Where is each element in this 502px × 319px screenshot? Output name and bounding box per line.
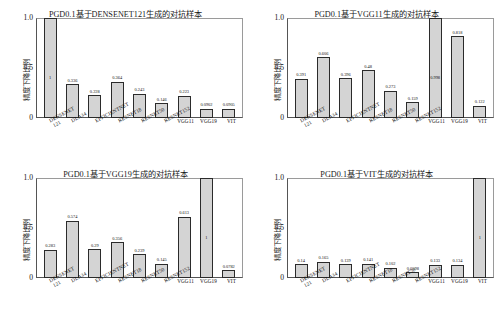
- x-tick-label: VGG19: [451, 278, 468, 284]
- x-tick-label: VIT: [478, 278, 487, 284]
- chart-panel-3: PGD0.1基于VGG19生成的对抗样本精度下降比例1.00.500.2830.…: [0, 160, 251, 319]
- bar[interactable]: 0.396: [339, 78, 352, 118]
- plot-area: 1.00.500.140.1650.1390.1410.1020.05980.1…: [287, 178, 494, 278]
- x-axis-ticks: DENSENET121DLA34EFFICIENTNETRESNET18RESN…: [36, 118, 243, 158]
- bar-value-label: 0.0902: [200, 102, 212, 107]
- bar[interactable]: 1: [473, 178, 486, 278]
- bar-value-label: 0.818: [453, 30, 463, 35]
- bar[interactable]: 0.391: [295, 79, 308, 118]
- bar[interactable]: 1: [44, 18, 57, 118]
- y-tick-label: 1.0: [24, 173, 34, 182]
- bar-series: 10.3360.2280.3640.2430.1460.2230.09020.0…: [36, 18, 243, 118]
- y-tick-label: 0.5: [275, 223, 285, 232]
- bar-slot: 1: [39, 18, 61, 118]
- bar-value-label: 0.139: [341, 258, 351, 263]
- bar-value-label: 0.228: [90, 89, 100, 94]
- bar-value-label: 1: [49, 75, 51, 80]
- y-tick-label: 1.0: [275, 173, 285, 182]
- bar-slot: 0.223: [173, 18, 195, 118]
- x-axis-ticks: DENSENET121DLA34EFFICIENTNETRESNET18RESN…: [36, 278, 243, 318]
- bar-series: 0.3910.6060.3960.480.2730.1590.9980.8180…: [287, 18, 494, 118]
- bar-value-label: 0.122: [475, 99, 485, 104]
- bar[interactable]: 0.0782: [222, 270, 235, 278]
- x-tick-label: VIT: [227, 118, 236, 124]
- bar[interactable]: 0.818: [451, 36, 464, 118]
- bar-slot: 0.134: [446, 178, 468, 278]
- bar-value-label: 0.48: [364, 64, 372, 69]
- bar-slot: 0.0598: [402, 178, 424, 278]
- x-tick-label-line1: VGG11: [428, 118, 445, 124]
- x-axis-ticks: DENSENET121DLA34EFFICIENTNETRESNET18RESN…: [287, 118, 494, 158]
- bar-value-label: 0.239: [135, 248, 145, 253]
- bar[interactable]: 1: [200, 178, 213, 278]
- x-tick-label-line1: VIT: [478, 278, 487, 284]
- y-tick-label: 1.0: [24, 13, 34, 22]
- x-tick-label-line1: VGG11: [428, 278, 445, 284]
- bar-slot: 0.145: [151, 178, 173, 278]
- bar-slot: 0.139: [335, 178, 357, 278]
- bar-slot: 0.133: [424, 178, 446, 278]
- bar-value-label: 0.613: [179, 210, 189, 215]
- y-tick-label: 0.5: [275, 63, 285, 72]
- plot-area: 1.00.500.3910.6060.3960.480.2730.1590.99…: [287, 18, 494, 118]
- x-tick-label-line1: VGG11: [177, 278, 194, 284]
- bar-value-label: 0.998: [430, 75, 440, 80]
- bar-series: 0.2830.5740.290.3560.2390.1450.61310.078…: [36, 178, 243, 278]
- bar-value-label: 0.364: [112, 75, 122, 80]
- x-tick-label: VIT: [227, 278, 236, 284]
- chart-panel-1: PGD0.1基于DENSENET121生成的对抗样本精度下降比例1.00.501…: [0, 0, 251, 160]
- bar-slot: 0.159: [402, 18, 424, 118]
- bar-slot: 0.336: [61, 18, 83, 118]
- x-tick-label: VGG11: [428, 278, 445, 284]
- x-tick-label: VGG11: [428, 118, 445, 124]
- bar-value-label: 0.145: [157, 257, 167, 262]
- bar-slot: 0.243: [128, 18, 150, 118]
- bar-value-label: 0.574: [68, 214, 78, 219]
- bar-value-label: 0.606: [319, 51, 329, 56]
- x-tick-label: VGG11: [177, 118, 194, 124]
- bar-slot: 0.146: [151, 18, 173, 118]
- x-axis-ticks: DENSENET121DLA34EFFICIENTNETRESNET18RESN…: [287, 278, 494, 318]
- bar-slot: 0.14: [290, 178, 312, 278]
- x-tick-label-line1: VIT: [227, 278, 236, 284]
- bar-slot: 0.391: [290, 18, 312, 118]
- bar-value-label: 0.391: [296, 72, 306, 77]
- plot-area: 1.00.500.2830.5740.290.3560.2390.1450.61…: [36, 178, 243, 278]
- bar-value-label: 0.223: [179, 89, 189, 94]
- bar[interactable]: 0.0902: [200, 109, 213, 118]
- y-tick-label: 1.0: [275, 13, 285, 22]
- bar-slot: 0.818: [446, 18, 468, 118]
- y-tick-label: 0: [29, 273, 33, 282]
- x-tick-label-line1: VGG19: [200, 118, 217, 124]
- bar-value-label: 0.273: [386, 84, 396, 89]
- bar-slot: 0.283: [39, 178, 61, 278]
- x-tick-label-line1: VIT: [227, 118, 236, 124]
- x-tick-label: VGG11: [177, 278, 194, 284]
- bar-slot: 0.0782: [218, 178, 240, 278]
- x-tick-label-line1: VGG19: [451, 118, 468, 124]
- bar[interactable]: 0.134: [451, 265, 464, 278]
- bar[interactable]: 0.122: [473, 106, 486, 118]
- bar-slot: 0.228: [84, 18, 106, 118]
- x-tick-label-line1: VGG11: [177, 118, 194, 124]
- x-tick-label: VGG19: [451, 118, 468, 124]
- plot-area: 1.00.5010.3360.2280.3640.2430.1460.2230.…: [36, 18, 243, 118]
- bar-slot: 0.29: [84, 178, 106, 278]
- bar-value-label: 0.134: [453, 258, 463, 263]
- bar-slot: 0.122: [469, 18, 491, 118]
- bar-slot: 0.165: [312, 178, 334, 278]
- bar-slot: 0.0905: [218, 18, 240, 118]
- bar-value-label: 0.356: [112, 236, 122, 241]
- chart-panel-4: PGD0.1基于VIT生成的对抗样本精度下降比例1.00.500.140.165…: [251, 160, 502, 319]
- bar[interactable]: 0.0905: [222, 109, 235, 118]
- figure-grid: PGD0.1基于DENSENET121生成的对抗样本精度下降比例1.00.501…: [0, 0, 502, 319]
- bar-slot: 1: [469, 178, 491, 278]
- bar[interactable]: 0.998: [429, 18, 442, 118]
- bar-value-label: 0.159: [408, 96, 418, 101]
- bar-value-label: 0.133: [430, 258, 440, 263]
- chart-panel-2: PGD0.1基于VGG11生成的对抗样本精度下降比例1.00.500.3910.…: [251, 0, 502, 160]
- bar-slot: 0.998: [424, 18, 446, 118]
- bar-value-label: 1: [479, 235, 481, 240]
- bar-value-label: 0.29: [91, 243, 99, 248]
- x-tick-label: VIT: [478, 118, 487, 124]
